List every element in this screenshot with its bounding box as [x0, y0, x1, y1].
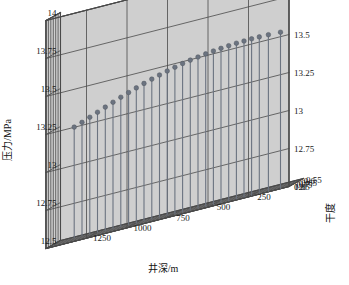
x-tick-label: 1000 [134, 223, 153, 233]
data-point-marker [234, 41, 239, 46]
data-point-marker [219, 46, 224, 51]
z-tick-label-right: 13.5 [294, 30, 310, 40]
data-point-marker [180, 61, 185, 66]
z-tick-label-left: 13 [48, 160, 58, 170]
data-point-marker [88, 115, 93, 120]
data-point-marker [80, 120, 85, 125]
data-point-marker [196, 55, 201, 60]
data-point-marker [134, 86, 139, 91]
data-point-marker [95, 110, 100, 115]
data-point-marker [142, 81, 147, 86]
data-point-marker [242, 39, 247, 44]
z-tick-label-left: 12.5 [41, 236, 57, 246]
data-point-marker [157, 73, 162, 78]
y-tick-label: 0.8 [294, 182, 306, 192]
data-point-marker [72, 125, 77, 130]
y-axis-title: 干度 [324, 203, 336, 223]
data-point-marker [211, 49, 216, 54]
data-point-marker [278, 30, 283, 35]
data-point-marker [150, 77, 155, 82]
z-tick-label-right: 13.75 [294, 0, 315, 2]
z-tick-label-left: 14 [48, 8, 58, 18]
data-point-marker [203, 52, 208, 57]
data-point-marker [226, 43, 231, 48]
x-tick-label: 750 [176, 213, 190, 223]
z-tick-label-right: 12.75 [294, 144, 315, 154]
x-tick-label: 250 [257, 192, 271, 202]
z-tick-label-left: 12.75 [36, 198, 57, 208]
z-tick-label-left: 13.5 [41, 84, 57, 94]
z-tick-label-left: 13.25 [36, 122, 57, 132]
data-point-marker [257, 35, 262, 40]
data-point-marker [266, 32, 271, 37]
data-point-marker [188, 58, 193, 63]
data-point-marker [126, 90, 131, 95]
data-point-marker [249, 37, 254, 42]
x-tick-label: 500 [217, 202, 231, 212]
z-tick-label-right: 13.25 [294, 68, 315, 78]
x-tick-label: 1250 [93, 233, 112, 243]
chart-figure: 12.512.751313.2513.513.751412.512.751313… [0, 0, 349, 285]
chart-canvas: 12.512.751313.2513.513.751412.512.751313… [0, 0, 349, 285]
z-tick-label-left: 13.75 [36, 46, 57, 56]
data-point-marker [165, 69, 170, 74]
data-point-marker [173, 65, 178, 70]
z-tick-label-right: 13 [294, 106, 304, 116]
data-point-marker [103, 105, 108, 110]
data-point-marker [119, 95, 124, 100]
data-point-marker [111, 100, 116, 105]
x-axis-title: 井深/m [148, 262, 179, 274]
z-axis-title: 压力/MPa [1, 119, 13, 161]
